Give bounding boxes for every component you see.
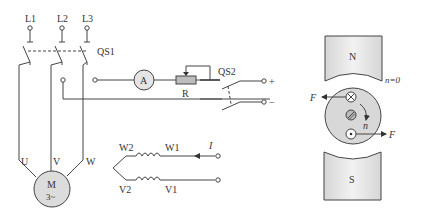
qs1-switch (23, 46, 87, 65)
rotor (322, 88, 386, 144)
label-l2: L2 (57, 13, 68, 24)
current-arrow-icon (194, 153, 200, 159)
rheostat (176, 66, 210, 84)
rotation-label: n (363, 120, 368, 131)
label-u: U (21, 156, 29, 167)
label-w2: W2 (119, 142, 133, 153)
north-pole-label: N (349, 51, 356, 62)
label-qs2: QS2 (218, 66, 236, 77)
label-l1: L1 (25, 13, 36, 24)
south-pole-label: S (349, 174, 355, 185)
label-v: V (53, 156, 61, 167)
supply-terminals (27, 26, 90, 42)
label-w1: W1 (165, 142, 179, 153)
diagram-canvas: L1 L2 L3 QS1 U V W M 3~ (0, 0, 421, 220)
label-l3: L3 (82, 13, 93, 24)
label-current: I (208, 140, 213, 151)
label-v1: V1 (165, 184, 177, 195)
ammeter-label: A (140, 75, 148, 86)
motor-label: M (47, 179, 56, 190)
label-negative: − (269, 97, 275, 108)
dc-circuit (61, 78, 270, 110)
force-right-label: F (388, 129, 396, 140)
label-qs1: QS1 (97, 46, 115, 57)
rheostat-label: R (182, 88, 189, 99)
label-w: W (86, 156, 96, 167)
force-left-label: F (309, 92, 317, 103)
speed-label: n=0 (385, 75, 401, 85)
label-v2: V2 (119, 184, 131, 195)
windings (113, 153, 220, 182)
label-positive: + (269, 76, 275, 87)
motor-phase: 3~ (46, 192, 56, 202)
